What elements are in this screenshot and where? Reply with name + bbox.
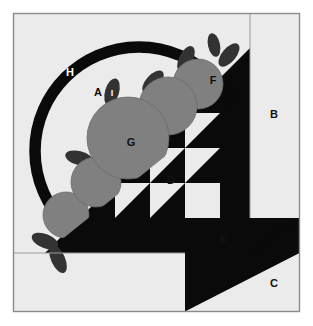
label-b: B	[270, 108, 278, 120]
quilt-block-figure: A B C D E F G H I	[0, 0, 313, 326]
label-d: D	[167, 174, 175, 186]
label-e: E	[220, 232, 227, 244]
label-c: C	[270, 277, 278, 289]
label-f: F	[210, 74, 217, 86]
square-r3c3-light-e	[185, 183, 220, 218]
label-a: A	[94, 86, 102, 98]
label-g: G	[127, 136, 136, 148]
label-h: H	[66, 66, 74, 78]
label-i: I	[111, 88, 114, 98]
